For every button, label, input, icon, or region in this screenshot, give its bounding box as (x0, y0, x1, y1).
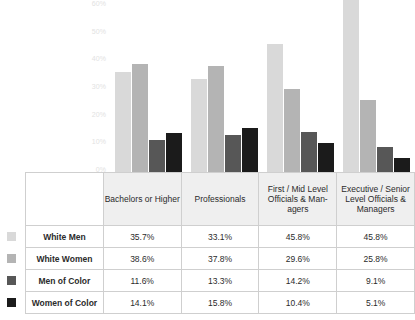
column-header: Professionals (181, 173, 259, 226)
bar (149, 140, 165, 172)
bar (191, 79, 207, 172)
legend-row-label: White Women (26, 248, 104, 270)
table-cell: 9.1% (337, 270, 415, 292)
legend-label-text: White Men (43, 232, 86, 242)
bar (132, 64, 148, 172)
data-table-wrap: Bachelors or HigherProfessionalsFirst / … (25, 172, 415, 314)
table-header-row: Bachelors or HigherProfessionalsFirst / … (26, 173, 415, 226)
bar-group (110, 0, 186, 172)
bar (208, 66, 224, 172)
table-cell: 13.3% (181, 270, 259, 292)
legend-label-text: Men of Color (38, 276, 90, 286)
y-axis-tick-label: 60% (72, 0, 106, 8)
column-header: First / Mid Level Officials & Man-agers (259, 173, 337, 226)
data-table: Bachelors or HigherProfessionalsFirst / … (25, 172, 415, 314)
column-header: Bachelors or Higher (103, 173, 181, 226)
y-axis-tick-label: 10% (72, 138, 106, 146)
table-cell: 14.2% (259, 270, 337, 292)
y-axis-tick-label: 50% (72, 28, 106, 36)
table-row: Men of Color11.6%13.3%14.2%9.1% (26, 270, 415, 292)
bar-group (339, 0, 415, 172)
bar (394, 158, 410, 172)
column-header: Executive / Senior Level Officials & Man… (337, 173, 415, 226)
table-row: White Men35.7%33.1%45.8%45.8% (26, 226, 415, 248)
bar (318, 143, 334, 172)
bar (267, 44, 283, 172)
bar-group (186, 0, 262, 172)
table-cell: 25.8% (337, 248, 415, 270)
legend-row-label: Women of Color (26, 292, 104, 314)
table-row: White Women38.6%37.8%29.6%25.8% (26, 248, 415, 270)
bar-group (263, 0, 339, 172)
plot-area (110, 0, 415, 172)
bar (166, 133, 182, 172)
bar (242, 128, 258, 172)
table-cell: 29.6% (259, 248, 337, 270)
table-cell: 37.8% (181, 248, 259, 270)
bar (377, 147, 393, 172)
bar (360, 100, 376, 172)
y-axis-tick-label: 30% (72, 83, 106, 91)
legend-label-text: Women of Color (32, 298, 97, 308)
legend-row-label: White Men (26, 226, 104, 248)
bar (343, 0, 359, 172)
bar (225, 135, 241, 172)
y-axis-tick-label: 40% (72, 55, 106, 63)
table-row: Women of Color14.1%15.8%10.4%5.1% (26, 292, 415, 314)
bar (115, 72, 131, 172)
table-cell: 14.1% (103, 292, 181, 314)
legend-swatch-icon (7, 232, 16, 241)
bar-chart-figure: 60%50%40%30%20%10%0% Bachelors or Higher… (0, 0, 415, 320)
table-corner-cell (26, 173, 104, 226)
table-cell: 10.4% (259, 292, 337, 314)
y-axis: 60%50%40%30%20%10%0% (70, 0, 106, 172)
bar (301, 132, 317, 172)
legend-label-text: White Women (36, 254, 92, 264)
bar (284, 89, 300, 172)
legend-swatch-icon (7, 254, 16, 263)
legend-row-label: Men of Color (26, 270, 104, 292)
table-cell: 5.1% (337, 292, 415, 314)
legend-swatch-icon (7, 276, 16, 285)
table-cell: 38.6% (103, 248, 181, 270)
table-cell: 35.7% (103, 226, 181, 248)
table-cell: 11.6% (103, 270, 181, 292)
table-cell: 45.8% (259, 226, 337, 248)
table-cell: 45.8% (337, 226, 415, 248)
table-cell: 33.1% (181, 226, 259, 248)
legend-swatch-icon (7, 298, 16, 307)
y-axis-tick-label: 20% (72, 111, 106, 119)
table-cell: 15.8% (181, 292, 259, 314)
